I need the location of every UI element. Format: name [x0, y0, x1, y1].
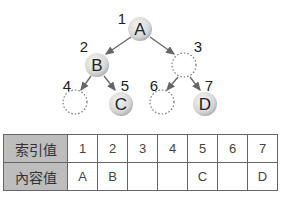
index-row: 索引值 1 2 3 4 5 6 7 — [4, 135, 278, 163]
tree-node-1: A 1 — [118, 10, 152, 41]
index-cell: 4 — [158, 135, 188, 163]
binary-tree-diagram: A 1 B 2 3 4 C 5 6 D 7 — [0, 0, 292, 130]
index-cell: 1 — [68, 135, 98, 163]
content-cell — [158, 163, 188, 191]
content-cell: C — [188, 163, 218, 191]
index-cell: 7 — [248, 135, 278, 163]
index-cell: 5 — [188, 135, 218, 163]
tree-node-2: B 2 — [80, 38, 109, 77]
content-cell — [218, 163, 248, 191]
content-cell: A — [68, 163, 98, 191]
array-table: 索引值 1 2 3 4 5 6 7 內容值 A B C D — [3, 134, 278, 191]
content-cell: B — [98, 163, 128, 191]
index-row-header: 索引值 — [4, 135, 68, 163]
svg-text:D: D — [199, 95, 211, 114]
tree-node-5: C 5 — [109, 77, 133, 116]
svg-text:5: 5 — [121, 77, 129, 94]
svg-text:4: 4 — [63, 77, 71, 94]
tree-node-7: D 7 — [193, 77, 217, 116]
index-cell: 3 — [128, 135, 158, 163]
tree-node-3: 3 — [172, 38, 202, 77]
svg-text:3: 3 — [194, 38, 202, 55]
svg-text:7: 7 — [205, 77, 213, 94]
content-cell — [128, 163, 158, 191]
content-cell: D — [248, 163, 278, 191]
tree-node-6: 6 — [150, 77, 174, 114]
content-row: 內容值 A B C D — [4, 163, 278, 191]
svg-text:C: C — [115, 95, 127, 114]
svg-text:B: B — [91, 56, 102, 75]
svg-text:A: A — [134, 20, 146, 39]
svg-text:1: 1 — [118, 10, 126, 27]
tree-node-4: 4 — [63, 77, 87, 114]
index-cell: 2 — [98, 135, 128, 163]
index-cell: 6 — [218, 135, 248, 163]
content-row-header: 內容值 — [4, 163, 68, 191]
svg-text:2: 2 — [80, 38, 88, 55]
svg-text:6: 6 — [150, 77, 158, 94]
